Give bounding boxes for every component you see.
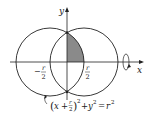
y-axis-arrow-icon (65, 7, 69, 12)
neg-r-half-sign: − (34, 67, 41, 76)
neg-r-half-num: r (42, 64, 46, 72)
top-intersection-point (66, 31, 69, 34)
shaded-region (67, 33, 84, 63)
two-circles-diagram: y x − r 2 r 2 ( x + r 2 ) 2 + y 2 = r 2 (0, 0, 152, 128)
r-half-den: 2 (86, 73, 90, 81)
eq-x: x (54, 101, 59, 111)
eq-frac-den: 2 (69, 106, 73, 112)
rotation-arrowhead-icon (127, 64, 131, 68)
x-axis-label: x (137, 65, 142, 75)
bottom-intersection-point (66, 91, 69, 94)
eq-equals: = (98, 101, 105, 111)
eq-plus-1: + (61, 101, 68, 111)
eq-exp-1: 2 (77, 98, 81, 104)
eq-exp-3: 2 (111, 99, 115, 105)
eq-exp-2: 2 (93, 99, 97, 105)
neg-r-half-den: 2 (42, 73, 46, 81)
eq-frac-num: r (69, 99, 72, 105)
circle-equation: ( x + r 2 ) 2 + y 2 = r 2 (50, 98, 115, 113)
y-axis-label: y (58, 6, 65, 16)
r-half-num: r (86, 64, 90, 72)
x-axis-arrow-icon (139, 60, 144, 64)
